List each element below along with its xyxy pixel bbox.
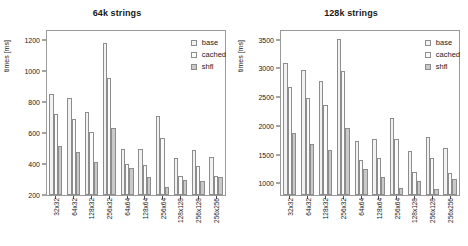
y-tick-mark xyxy=(276,97,280,98)
bar-shfl xyxy=(381,177,385,195)
x-axis-tick-label: 128x32 xyxy=(88,198,95,219)
legend-right: basecachedshfl xyxy=(425,38,460,71)
page-title-right: 128k strings xyxy=(234,8,468,18)
legend-label: shfl xyxy=(436,62,448,71)
y-tick-800: 800 xyxy=(28,99,46,106)
legend-item-shfl: shfl xyxy=(425,62,460,71)
x-axis-tick-label: 256x32 xyxy=(106,198,113,219)
x-label-cell: 128x64 xyxy=(136,198,154,244)
x-axis-tick-label: 256x32 xyxy=(340,198,347,219)
y-tick-1000: 1000 xyxy=(258,180,280,187)
bar-group xyxy=(334,31,352,195)
chart-panel-left: 64k strings times [ms] 20040060080010001… xyxy=(0,0,234,246)
x-axis-tick-label: 128x64 xyxy=(141,198,148,219)
x-axis-tick-label: 256x256 xyxy=(447,198,454,223)
y-tick-2500: 2500 xyxy=(258,94,280,101)
bar-shfl xyxy=(111,128,115,195)
x-label-cell: 128x32 xyxy=(317,198,335,244)
bar-shfl xyxy=(183,180,187,195)
x-label-cell: 128x128 xyxy=(172,198,190,244)
x-axis-tick-label: 32x32 xyxy=(286,198,293,216)
x-axis-tick-label: 128x64 xyxy=(375,198,382,219)
y-tick-label: 400 xyxy=(28,161,42,168)
y-tick-label: 1200 xyxy=(24,37,42,44)
y-tick-label: 600 xyxy=(28,130,42,137)
bar-group xyxy=(65,31,83,195)
bar-shfl xyxy=(363,169,367,195)
legend-item-base: base xyxy=(425,38,460,47)
x-axis-labels-right: 32x3264x32128x32256x3264x64128x64256x641… xyxy=(281,198,459,244)
y-tick-1200: 1200 xyxy=(24,37,46,44)
x-axis-tick-label: 64x64 xyxy=(358,198,365,216)
bar-group xyxy=(352,31,370,195)
bar-group xyxy=(118,31,136,195)
legend-label: cached xyxy=(202,50,226,59)
x-axis-tick-label: 32x32 xyxy=(52,198,59,216)
bar-group xyxy=(83,31,101,195)
legend-swatch-icon xyxy=(191,40,197,46)
legend-left: basecachedshfl xyxy=(191,38,226,71)
bar-group xyxy=(406,31,424,195)
bar-group xyxy=(281,31,299,195)
x-label-cell: 128x32 xyxy=(83,198,101,244)
legend-label: base xyxy=(202,38,218,47)
legend-label: cached xyxy=(436,50,460,59)
x-label-cell: 256x128 xyxy=(423,198,441,244)
x-axis-tick-label: 256x64 xyxy=(393,198,400,219)
y-tick-mark xyxy=(42,71,46,72)
y-axis-ticks-left: 20040060080010001200 xyxy=(0,30,46,196)
legend-swatch-icon xyxy=(425,64,431,70)
y-tick-mark xyxy=(276,68,280,69)
y-tick-mark xyxy=(42,133,46,134)
y-tick-label: 1000 xyxy=(258,180,276,187)
bar-group xyxy=(388,31,406,195)
bar-shfl xyxy=(399,188,403,195)
x-label-cell: 64x64 xyxy=(118,198,136,244)
x-label-cell: 256x256 xyxy=(441,198,459,244)
bar-shfl xyxy=(345,128,349,195)
bar-shfl xyxy=(417,181,421,195)
bar-shfl xyxy=(452,179,456,195)
y-tick-mark xyxy=(276,183,280,184)
legend-item-cached: cached xyxy=(191,50,226,59)
x-label-cell: 64x32 xyxy=(299,198,317,244)
x-axis-tick-label: 64x32 xyxy=(70,198,77,216)
bar-shfl xyxy=(328,150,332,195)
bar-shfl xyxy=(218,177,222,195)
x-label-cell: 256x32 xyxy=(100,198,118,244)
y-tick-3000: 3000 xyxy=(258,65,280,72)
x-label-cell: 256x64 xyxy=(388,198,406,244)
y-tick-label: 2000 xyxy=(258,122,276,129)
y-tick-mark xyxy=(42,195,46,196)
x-label-cell: 64x32 xyxy=(65,198,83,244)
x-axis-tick-label: 64x64 xyxy=(124,198,131,216)
x-axis-tick-label: 128x32 xyxy=(322,198,329,219)
x-label-cell: 256x128 xyxy=(189,198,207,244)
legend-label: shfl xyxy=(202,62,214,71)
bar-shfl xyxy=(76,152,80,195)
x-axis-tick-label: 256x128 xyxy=(195,198,202,223)
x-label-cell: 128x128 xyxy=(406,198,424,244)
bar-group xyxy=(172,31,190,195)
bar-shfl xyxy=(58,146,62,195)
y-tick-1500: 1500 xyxy=(258,151,280,158)
legend-swatch-icon xyxy=(191,52,197,58)
x-axis-tick-label: 128x128 xyxy=(411,198,418,223)
y-tick-200: 200 xyxy=(28,192,46,199)
x-axis-tick-label: 128x128 xyxy=(177,198,184,223)
y-tick-label: 3000 xyxy=(258,65,276,72)
x-label-cell: 64x64 xyxy=(352,198,370,244)
y-tick-400: 400 xyxy=(28,161,46,168)
bar-shfl xyxy=(310,144,314,195)
legend-swatch-icon xyxy=(425,40,431,46)
x-axis-tick-label: 64x32 xyxy=(304,198,311,216)
x-label-cell: 32x32 xyxy=(47,198,65,244)
bar-shfl xyxy=(129,168,133,195)
y-tick-2000: 2000 xyxy=(258,122,280,129)
y-tick-3500: 3500 xyxy=(258,36,280,43)
legend-item-base: base xyxy=(191,38,226,47)
bar-shfl xyxy=(147,177,151,195)
y-tick-mark xyxy=(276,39,280,40)
legend-label: base xyxy=(436,38,452,47)
y-tick-mark xyxy=(276,125,280,126)
